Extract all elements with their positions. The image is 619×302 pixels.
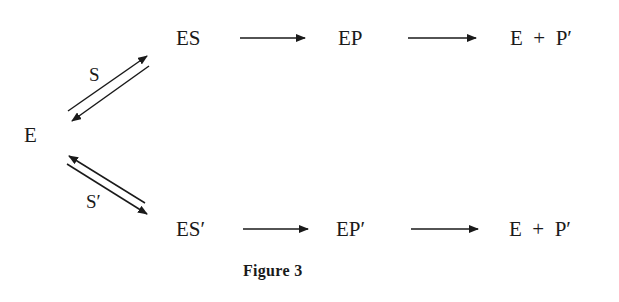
substrate-s-prime-label: S′: [86, 192, 101, 211]
arrow-es-prime-to-e: [69, 156, 145, 203]
plus-sign: +: [533, 26, 545, 50]
arrow-e-to-es: [68, 56, 147, 111]
arrow-e-to-es-prime: [67, 164, 147, 214]
complex-ep: EP: [338, 28, 363, 49]
product-enzyme-e: E: [509, 217, 522, 241]
upper-products: E + P′: [510, 28, 572, 49]
enzyme-node: E: [24, 125, 37, 146]
product-p-prime: P′: [555, 217, 571, 241]
product-p-prime: P′: [556, 26, 572, 50]
complex-es-prime: ES′: [176, 219, 205, 240]
lower-products: E + P′: [509, 219, 571, 240]
complex-es: ES: [176, 28, 201, 49]
product-enzyme-e: E: [510, 26, 523, 50]
complex-ep-prime: EP′: [336, 219, 365, 240]
plus-sign: +: [532, 217, 544, 241]
figure-caption: Figure 3: [243, 262, 302, 280]
substrate-s-label: S: [89, 65, 100, 84]
arrow-es-to-e: [72, 66, 149, 121]
